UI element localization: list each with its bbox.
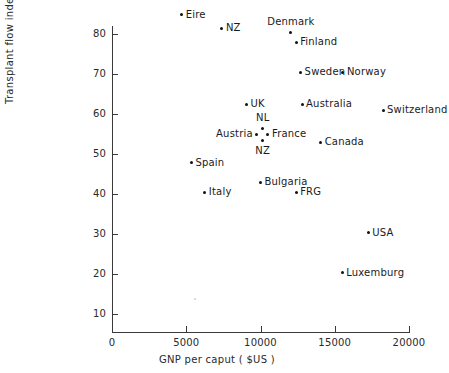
y-tick-label-30: 30 [60,229,106,239]
point-label-nl-9: NL [223,112,303,123]
y-axis-title: Transplant flow index [4,0,15,104]
y-tick-label-50: 50 [60,149,106,159]
x-axis-title: GNP per caput ( $US ) [0,354,434,365]
y-tick-40 [112,194,118,195]
y-tick-label-70: 70 [60,69,106,79]
point-label-norway-5: Norway [347,66,386,77]
y-tick-10 [112,314,118,315]
data-point-italy-16[interactable] [203,191,206,194]
x-tick-0 [112,326,113,333]
y-tick-70 [112,74,118,75]
y-tick-label-10: 10 [60,309,106,319]
y-tick-label-20: 20 [60,269,106,279]
data-point-nz-12[interactable] [261,139,264,142]
data-point-nl-9[interactable] [261,127,264,130]
y-tick-80 [112,34,118,35]
point-label-france-11: France [272,128,306,139]
x-tick-label-5000: 5000 [146,337,226,348]
y-tick-label-40: 40 [60,189,106,199]
point-label-finland-3: Finland [300,36,337,47]
data-point-bulgaria-15[interactable] [259,181,262,184]
point-label-eire-0: Eire [186,9,206,20]
y-tick-50 [112,154,118,155]
data-point-france-11[interactable] [266,133,269,136]
data-point-usa-18[interactable] [367,231,370,234]
point-label-sweden-4: Sweden [305,66,346,77]
y-tick-30 [112,234,118,235]
point-label-spain-14: Spain [195,157,224,168]
point-label-frg-17: FRG [300,186,321,197]
x-tick-20000 [409,326,410,333]
data-point-eire-0[interactable] [180,13,183,16]
data-point-finland-3[interactable] [295,41,298,44]
data-point-luxemburg-19[interactable] [341,271,344,274]
data-point-canada-13[interactable] [319,141,322,144]
point-label-canada-13: Canada [325,136,364,147]
x-tick-label-0: 0 [72,337,152,348]
point-label-nz-1: NZ [226,22,241,33]
point-label-uk-6: UK [250,98,264,109]
x-tick-label-20000: 20000 [369,337,449,348]
point-label-luxemburg-19: Luxemburg [346,267,404,278]
x-tick-label-10000: 10000 [221,337,301,348]
x-tick-10000 [261,326,262,333]
data-point-switzerland-8[interactable] [382,109,385,112]
data-point-frg-17[interactable] [295,191,298,194]
y-tick-60 [112,114,118,115]
point-label-usa-18: USA [372,227,393,238]
point-label-denmark-2: Denmark [251,16,331,27]
point-label-italy-16: Italy [209,186,232,197]
data-point-spain-14[interactable] [190,161,193,164]
point-label-nz-12: NZ [223,145,303,156]
x-tick-label-15000: 15000 [295,337,375,348]
point-label-austria-10: Austria [0,128,253,139]
point-label-australia-7: Australia [306,98,352,109]
data-point-nz-1[interactable] [220,27,223,30]
data-point-sweden-4[interactable] [299,71,302,74]
data-point-uk-6[interactable] [245,103,248,106]
data-point-unlabeled-20[interactable] [194,298,196,300]
y-tick-label-60: 60 [60,109,106,119]
point-label-switzerland-8: Switzerland [387,104,448,115]
x-tick-5000 [186,326,187,333]
data-point-australia-7[interactable] [301,103,304,106]
x-tick-15000 [335,326,336,333]
y-axis-line [112,26,113,333]
y-tick-label-80: 80 [60,29,106,39]
y-tick-20 [112,274,118,275]
data-point-denmark-2[interactable] [289,31,292,34]
data-point-austria-10[interactable] [255,133,258,136]
